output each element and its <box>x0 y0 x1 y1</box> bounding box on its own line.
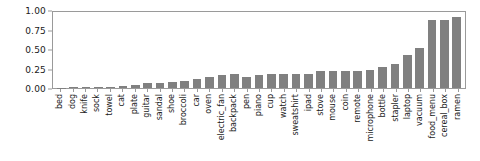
x-tick-mark <box>184 89 185 92</box>
x-tick-mark <box>110 89 111 92</box>
x-tick-slot: towel <box>104 89 116 161</box>
x-tick-slot: stapler <box>389 89 401 161</box>
bar-slot <box>80 12 92 88</box>
x-tick-slot: cup <box>265 89 277 161</box>
x-tick-slot: car <box>191 89 203 161</box>
x-tick-slot: piano <box>253 89 265 161</box>
x-tick-slot: mouse <box>327 89 339 161</box>
x-tick-mark <box>234 89 235 92</box>
x-tick-slot: shoe <box>166 89 178 161</box>
x-tick-slot: ramen <box>452 89 464 161</box>
x-tick-label: watch <box>280 94 288 118</box>
x-tick-mark <box>309 89 310 92</box>
x-tick-mark <box>172 89 173 92</box>
x-tick-mark <box>346 89 347 92</box>
plot-area <box>52 11 466 89</box>
bar <box>218 75 227 88</box>
x-tick-label: food_menu <box>429 94 437 139</box>
x-tick-label: vacuum <box>416 94 424 126</box>
bar-slot <box>55 12 67 88</box>
y-tick-label: 0.25 <box>25 65 46 75</box>
y-tick-label: 0.00 <box>25 84 46 94</box>
x-tick-label: guitar <box>143 94 151 118</box>
x-tick-slot: oven <box>203 89 215 161</box>
x-tick-mark <box>445 89 446 92</box>
y-axis: 0.000.250.500.751.00 <box>0 11 52 89</box>
bar <box>292 74 301 88</box>
x-tick-mark <box>60 89 61 92</box>
bar-chart-figure: 0.000.250.500.751.00 beddogknifesocktowe… <box>0 0 480 161</box>
bar <box>168 82 177 88</box>
x-tick-slot: dog <box>66 89 78 161</box>
x-tick-mark <box>222 89 223 92</box>
x-tick-label: towel <box>106 94 114 116</box>
x-tick-mark <box>73 89 74 92</box>
bar <box>329 71 338 88</box>
x-tick-label: sock <box>93 94 101 112</box>
x-tick-mark <box>284 89 285 92</box>
bar-slot <box>277 12 289 88</box>
x-tick-label: cereal_box <box>441 94 449 137</box>
bar-slot <box>413 12 425 88</box>
x-tick-label: shoe <box>168 94 176 113</box>
x-tick-label: coin <box>342 94 350 111</box>
bar <box>205 77 214 88</box>
x-tick-mark <box>259 89 260 92</box>
bar <box>316 71 325 88</box>
bar-slot <box>389 12 401 88</box>
x-tick-slot: cat <box>116 89 128 161</box>
x-tick-label: oven <box>205 94 213 114</box>
x-tick-label: sweatshirt <box>292 94 300 136</box>
x-tick-slot: sandal <box>153 89 165 161</box>
x-tick-label: microphone <box>367 94 375 141</box>
x-tick-slot: coin <box>340 89 352 161</box>
bar-slot <box>92 12 104 88</box>
bar-slot <box>104 12 116 88</box>
x-tick-mark <box>396 89 397 92</box>
bar-slot <box>339 12 351 88</box>
bar <box>391 64 400 88</box>
bar-slot <box>438 12 450 88</box>
bar <box>193 79 202 88</box>
bar-slot <box>352 12 364 88</box>
bar <box>69 87 78 88</box>
x-tick-mark <box>247 89 248 92</box>
x-tick-slot: cereal_box <box>439 89 451 161</box>
bar-slot <box>451 12 463 88</box>
x-tick-label: ramen <box>454 94 462 120</box>
bar <box>94 87 103 88</box>
bar <box>378 67 387 88</box>
x-tick-label: bottle <box>379 94 387 117</box>
x-tick-label: mouse <box>329 94 337 121</box>
bar <box>242 77 251 88</box>
x-tick-label: pen <box>243 94 251 109</box>
x-tick-slot: broccoli <box>178 89 190 161</box>
x-tick-mark <box>271 89 272 92</box>
bar <box>119 86 128 88</box>
bar <box>304 74 313 88</box>
x-tick-label: cup <box>267 94 275 109</box>
x-tick-mark <box>458 89 459 92</box>
bar <box>106 87 115 88</box>
bar <box>156 83 165 88</box>
bar <box>279 74 288 88</box>
bar <box>267 74 276 88</box>
x-tick-label: laptop <box>404 94 412 119</box>
x-tick-slot: remote <box>352 89 364 161</box>
bar <box>341 71 350 88</box>
bar-slot <box>142 12 154 88</box>
x-tick-slot: vacuum <box>414 89 426 161</box>
bar-slot <box>327 12 339 88</box>
bar-slot <box>67 12 79 88</box>
x-tick-mark <box>433 89 434 92</box>
x-tick-slot: bottle <box>377 89 389 161</box>
bar-series <box>53 12 465 88</box>
bar <box>403 55 412 88</box>
bar-slot <box>166 12 178 88</box>
bar-slot <box>154 12 166 88</box>
bar <box>415 48 424 88</box>
bar-slot <box>129 12 141 88</box>
y-tick-label: 0.50 <box>25 45 46 55</box>
bar-slot <box>302 12 314 88</box>
x-tick-slot: stove <box>315 89 327 161</box>
